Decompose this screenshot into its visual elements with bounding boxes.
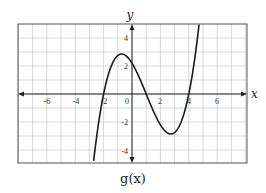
y-tick-label: 2 <box>124 62 128 71</box>
origin-label: 0 <box>125 97 129 106</box>
y-axis-label: y <box>126 8 134 22</box>
y-tick-label: -4 <box>121 147 128 156</box>
y-tick-label: 4 <box>124 34 128 43</box>
x-axis-right-arrow-icon <box>241 92 247 97</box>
x-tick-label: 6 <box>215 97 219 106</box>
x-tick-label: -6 <box>44 97 51 106</box>
x-axis-left-arrow-icon <box>18 92 24 97</box>
x-tick-label: 2 <box>158 97 162 106</box>
y-axis-up-arrow-icon <box>130 24 135 30</box>
graph-caption: g(x) <box>120 171 146 186</box>
function-graph: -6 -4 -2 0 2 4 6 4 2 -2 -4 x y g(x) <box>0 0 266 193</box>
x-tick-label: -4 <box>73 97 80 106</box>
y-tick-label: -2 <box>121 118 128 127</box>
y-axis-down-arrow-icon <box>130 157 135 163</box>
x-axis-label: x <box>251 87 258 101</box>
